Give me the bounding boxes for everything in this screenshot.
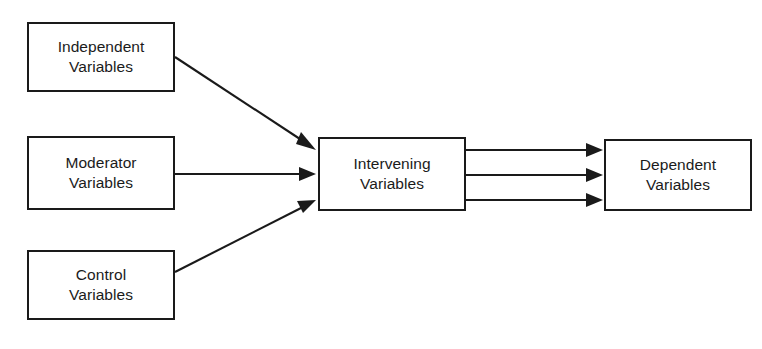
- edge-intervening-to-dependent-bottom: [466, 193, 603, 207]
- edge-control-to-intervening: [175, 200, 316, 272]
- node-moderator-label-line2: Variables: [69, 173, 133, 193]
- node-independent-label-line2: Variables: [69, 57, 133, 77]
- node-control-label-line1: Control: [76, 265, 126, 285]
- edge-intervening-to-dependent-top: [466, 143, 603, 157]
- node-control-label-line2: Variables: [69, 285, 133, 305]
- diagram-canvas: Independent Variables Moderator Variable…: [0, 0, 762, 349]
- node-moderator-variables: Moderator Variables: [27, 136, 175, 210]
- node-intervening-variables: Intervening Variables: [318, 137, 466, 211]
- node-intervening-label-line2: Variables: [360, 174, 424, 194]
- node-dependent-variables: Dependent Variables: [604, 139, 752, 211]
- node-intervening-label-line1: Intervening: [353, 154, 430, 174]
- node-independent-variables: Independent Variables: [27, 22, 175, 92]
- edge-intervening-to-dependent-middle: [466, 168, 603, 182]
- node-dependent-label-line2: Variables: [646, 175, 710, 195]
- node-independent-label-line1: Independent: [58, 37, 145, 57]
- node-dependent-label-line1: Dependent: [640, 155, 716, 175]
- edge-moderator-to-intervening: [175, 167, 316, 181]
- edge-independent-to-intervening: [175, 57, 316, 150]
- node-control-variables: Control Variables: [27, 250, 175, 320]
- node-moderator-label-line1: Moderator: [65, 153, 136, 173]
